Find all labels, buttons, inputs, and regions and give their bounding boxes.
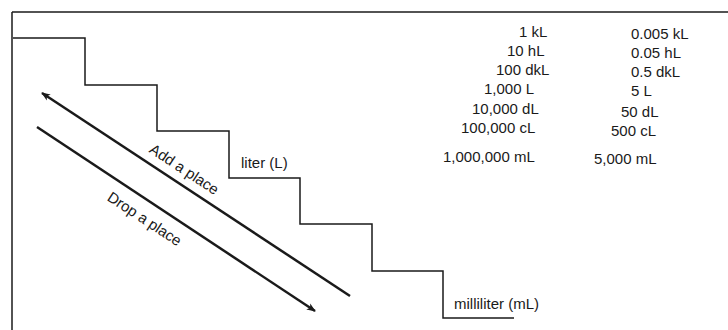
conversion-item: 10,000 dL	[472, 100, 539, 118]
liter-label: liter (L)	[241, 154, 288, 172]
conversion-item: 5,000 mL	[594, 150, 657, 168]
conversion-item: 5 L	[631, 82, 652, 100]
milliliter-label: milliliter (mL)	[454, 295, 539, 313]
conversion-item: 100 dkL	[496, 61, 549, 79]
conversion-item: 100,000 cL	[461, 119, 535, 137]
conversion-item: 1,000,000 mL	[443, 148, 535, 166]
conversion-item: 0.05 hL	[631, 44, 681, 62]
conversion-item: 10 hL	[507, 42, 545, 60]
add-a-place-arrow	[42, 93, 350, 296]
conversion-item: 1,000 L	[484, 80, 534, 98]
conversion-item: 0.5 dkL	[631, 63, 680, 81]
conversion-item: 50 dL	[621, 103, 659, 121]
conversion-item: 0.005 kL	[631, 25, 689, 43]
conversion-item: 1 kL	[519, 23, 547, 41]
conversion-item: 500 cL	[611, 122, 656, 140]
